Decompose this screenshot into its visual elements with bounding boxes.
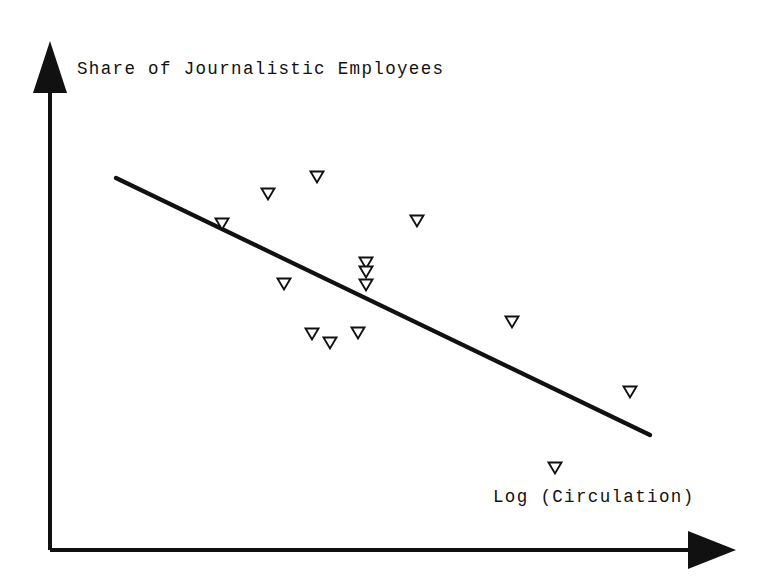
scatter-plot-figure: Share of Journalistic Employees Log (Cir… [0,0,773,584]
data-point-marker [306,329,319,340]
data-markers-layer [216,172,637,474]
x-axis-arrowhead-icon [688,531,736,569]
fitted-regression-line [116,178,650,435]
data-point-marker [506,317,519,328]
data-point-marker [352,328,365,339]
data-point-marker [262,189,275,200]
data-point-marker [549,463,562,474]
data-point-marker [360,280,373,291]
data-point-marker [360,267,373,278]
data-point-marker [411,216,424,227]
data-point-marker [324,338,337,349]
data-point-marker [311,172,324,183]
y-axis-label: Share of Journalistic Employees [77,61,444,79]
x-axis-label: Log (Circulation) [493,489,694,507]
y-axis-arrowhead-icon [33,41,67,93]
data-point-marker [278,279,291,290]
data-point-marker [624,387,637,398]
regression-line-group [116,178,650,435]
